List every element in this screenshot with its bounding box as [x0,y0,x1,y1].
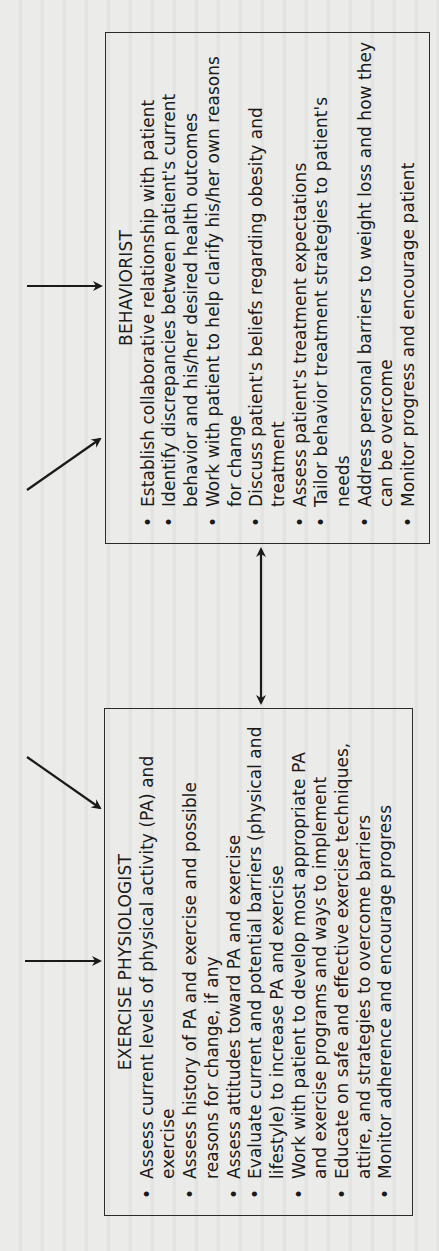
list-item: •Assess patient's treatment expectations [290,41,312,529]
bullet-icon: • [180,1189,202,1199]
behaviorist-title: BEHAVIORIST [116,33,138,543]
list-item: •Work with patient to develop most appro… [289,717,332,1201]
bullet-icon: • [203,517,225,527]
bullet-icon: • [311,517,333,527]
list-item: •Establish collaborative relationship wi… [138,41,160,529]
list-item: •Work with patient to help clarify his/h… [203,41,246,529]
exercise-physiologist-list: •Assess current levels of physical activ… [137,709,397,1215]
list-item: •Assess current levels of physical activ… [137,717,180,1201]
list-item: •Assess attitudes toward PA and exercise [224,717,246,1201]
bullet-icon: • [224,1189,246,1199]
rotated-figure: EXERCISE PHYSIOLOGIST •Assess current le… [0,0,439,1251]
exercise-physiologist-box: EXERCISE PHYSIOLOGIST •Assess current le… [104,708,413,1216]
list-item: •Assess history of PA and exercise and p… [180,717,223,1201]
list-item: •Tailor behavior treatment strategies to… [311,41,354,529]
bullet-icon: • [355,517,377,527]
list-item: •Educate on safe and effective exercise … [332,717,375,1201]
list-item: •Address personal barriers to weight los… [355,41,398,529]
bullet-icon: • [159,517,181,527]
behaviorist-list: •Establish collaborative relationship wi… [138,33,420,543]
bullet-icon: • [332,1189,354,1199]
bullet-icon: • [245,1189,267,1199]
bullet-icon: • [137,1189,159,1199]
bullet-icon: • [398,517,420,527]
list-item: •Monitor adherence and encourage progres… [375,717,397,1201]
exercise-physiologist-title: EXERCISE PHYSIOLOGIST [115,709,137,1215]
bullet-icon: • [290,517,312,527]
list-item: •Evaluate current and potential barriers… [245,717,288,1201]
behaviorist-box: BEHAVIORIST •Establish collaborative rel… [105,32,430,544]
bullet-icon: • [289,1189,311,1199]
list-item: •Discuss patient's beliefs regarding obe… [246,41,289,529]
bullet-icon: • [246,517,268,527]
list-item: •Identify discrepancies between patient'… [159,41,202,529]
bullet-icon: • [138,517,160,527]
list-item: •Monitor progress and encourage patient [398,41,420,529]
bullet-icon: • [375,1189,397,1199]
